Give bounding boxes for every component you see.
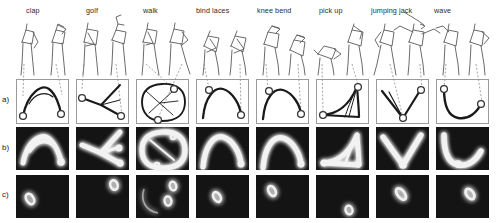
heatmap-jumping-jack bbox=[383, 135, 421, 168]
heatmap-golf bbox=[82, 132, 122, 165]
jumping-jack-arrow-icon bbox=[404, 12, 425, 29]
row-a-overlay bbox=[0, 62, 497, 127]
row-b-overlay bbox=[0, 127, 497, 170]
sparse-blob-pick-up bbox=[344, 205, 353, 215]
sparse-blob-wave bbox=[464, 187, 477, 201]
heatmap-walk bbox=[142, 132, 185, 168]
heatmap-clap bbox=[23, 137, 64, 165]
heatmap-pick-up bbox=[322, 135, 361, 166]
sparse-blob-golf bbox=[109, 179, 119, 190]
heatmap-knee-bend bbox=[263, 138, 303, 168]
trajectory-wave bbox=[444, 89, 481, 118]
trajectory-golf bbox=[82, 85, 121, 116]
trajectory-jumping-jack-secondary bbox=[389, 92, 403, 118]
motion-trajectory-figure: a) b) c) clap golf walk bind laces knee … bbox=[0, 0, 497, 223]
heatmap-bind-laces bbox=[203, 137, 243, 167]
row-c-overlay bbox=[0, 175, 497, 218]
sparse-blob-jumping-jack bbox=[394, 187, 408, 202]
trajectory-clap bbox=[23, 88, 61, 116]
trajectory-pick-up bbox=[323, 87, 359, 117]
trajectory-jumping-jack bbox=[382, 89, 421, 118]
leader-lines bbox=[23, 64, 482, 118]
sparse-blob-walk bbox=[143, 181, 177, 213]
heatmap-wave bbox=[444, 135, 481, 167]
sparse-blob-clap bbox=[24, 192, 36, 205]
trajectory-walk-secondary bbox=[146, 91, 178, 115]
sparse-blob-knee-bend bbox=[266, 185, 277, 198]
endpoint-markers bbox=[20, 84, 485, 124]
sparse-blob-bind-laces bbox=[211, 191, 222, 203]
